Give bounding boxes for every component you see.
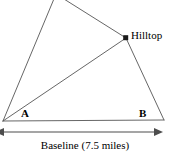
- triangle-baseline-edge: [3, 120, 164, 121]
- vertex-label-b: B: [139, 108, 146, 119]
- diagram-canvas: [0, 0, 170, 162]
- triangulation-figure: A B Hilltop Baseline (7.5 miles): [0, 0, 170, 162]
- triangle-upper-right-edge: [56, 0, 126, 38]
- hilltop-point-marker: [123, 35, 128, 40]
- baseline-caption: Baseline (7.5 miles): [0, 140, 170, 151]
- vertex-label-a: A: [21, 108, 29, 119]
- hilltop-label: Hilltop: [131, 30, 162, 41]
